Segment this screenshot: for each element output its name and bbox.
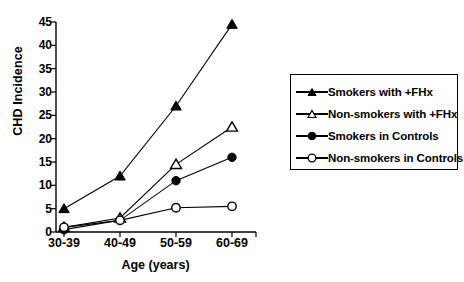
data-point-marker bbox=[228, 153, 236, 161]
y-tick-label: 35 bbox=[26, 63, 52, 75]
data-point-marker bbox=[228, 202, 236, 210]
x-axis-title: Age (years) bbox=[48, 258, 263, 272]
y-axis-title: CHD Incidence bbox=[11, 21, 25, 161]
x-tick-label: 50-59 bbox=[146, 236, 206, 250]
legend-label: Smokers with +FHx bbox=[328, 86, 433, 98]
x-tick-label: 60-69 bbox=[202, 236, 262, 250]
data-point-marker bbox=[172, 176, 180, 184]
y-tick-label: 20 bbox=[26, 133, 52, 145]
legend-item[interactable]: Non-smokers in Controls bbox=[291, 147, 457, 169]
legend-label: Non-smokers in Controls bbox=[328, 152, 463, 164]
legend-item[interactable]: Smokers with +FHx bbox=[291, 81, 457, 103]
legend-marker-filled-circle-icon bbox=[296, 129, 328, 143]
data-point-marker bbox=[227, 122, 238, 131]
legend-item[interactable]: Non-smokers with +FHx bbox=[291, 103, 457, 125]
axis-lines bbox=[51, 22, 256, 237]
data-series-group bbox=[59, 19, 238, 234]
y-tick-label: 25 bbox=[26, 109, 52, 121]
data-point-marker bbox=[115, 171, 126, 180]
y-tick-label: 45 bbox=[26, 16, 52, 28]
legend-marker-open-triangle-icon bbox=[296, 107, 328, 121]
data-point-marker bbox=[172, 204, 180, 212]
series-line bbox=[64, 206, 232, 227]
legend-marker-filled-triangle-icon bbox=[296, 85, 328, 99]
data-point-marker bbox=[227, 19, 238, 28]
x-tick-label: 30-39 bbox=[34, 236, 94, 250]
y-tick-label: 10 bbox=[26, 179, 52, 191]
y-tick-label: 40 bbox=[26, 39, 52, 51]
x-tick-label: 40-49 bbox=[90, 236, 150, 250]
y-tick-label: 15 bbox=[26, 156, 52, 168]
legend-marker-open-circle-icon bbox=[296, 151, 328, 165]
chart-figure: CHD Incidence 051015202530354045 30-3940… bbox=[0, 0, 464, 282]
data-point-marker bbox=[59, 204, 70, 213]
data-point-marker bbox=[171, 159, 182, 168]
y-tick-label: 30 bbox=[26, 86, 52, 98]
legend-item[interactable]: Smokers in Controls bbox=[291, 125, 457, 147]
series-line bbox=[64, 127, 232, 227]
series-line bbox=[64, 24, 232, 208]
data-point-marker bbox=[116, 216, 124, 224]
data-point-marker bbox=[60, 223, 68, 231]
legend-label: Smokers in Controls bbox=[328, 130, 439, 142]
legend-label: Non-smokers with +FHx bbox=[328, 108, 457, 120]
chart-legend: Smokers with +FHx Non-smokers with +FHx … bbox=[290, 74, 458, 170]
y-tick-label: 5 bbox=[26, 203, 52, 215]
data-point-marker bbox=[171, 101, 182, 110]
